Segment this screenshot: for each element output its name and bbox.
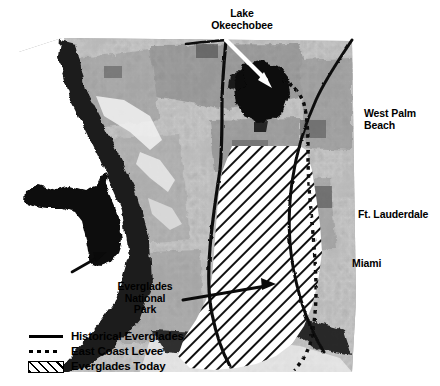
legend-swatch-dashed-line-icon bbox=[28, 345, 64, 358]
map-label-everglades-national-park: Everglades National Park bbox=[108, 281, 182, 316]
legend-label-everglades-today: Everglades Today bbox=[71, 360, 165, 373]
legend-swatch-hatch-box-icon bbox=[28, 361, 64, 373]
lake-okeechobee-south-tail bbox=[254, 121, 268, 132]
map-label-ft-lauderdale: Ft. Lauderdale bbox=[358, 209, 428, 221]
map-label-miami: Miami bbox=[352, 258, 381, 270]
map-label-west-palm-beach: West Palm Beach bbox=[364, 108, 438, 131]
legend-label-historical-everglades: Historical Everglades bbox=[71, 330, 184, 343]
legend-item-everglades-today: Everglades Today bbox=[28, 359, 228, 374]
legend-item-east-coast-levee: East Coast Levee bbox=[28, 344, 228, 359]
everglades-map-figure: Lake Okeechobee West Palm Beach Ft. Laud… bbox=[0, 0, 440, 386]
map-legend: Historical Everglades East Coast Levee E… bbox=[28, 329, 228, 374]
legend-swatch-solid-line-icon bbox=[28, 330, 64, 343]
legend-label-east-coast-levee: East Coast Levee bbox=[71, 345, 163, 358]
map-label-lake-okeechobee: Lake Okeechobee bbox=[196, 8, 288, 31]
legend-item-historical-everglades: Historical Everglades bbox=[28, 329, 228, 344]
map-stage: Lake Okeechobee West Palm Beach Ft. Laud… bbox=[0, 0, 440, 386]
